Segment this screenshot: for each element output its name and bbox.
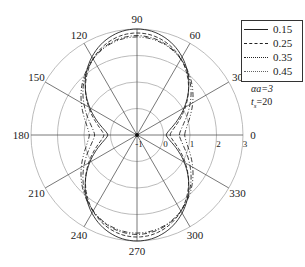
angle-tick-label: 0: [250, 129, 256, 141]
angle-tick-label: 180: [13, 129, 30, 141]
angle-tick-label: 210: [28, 187, 45, 199]
radial-tick-label: 2: [216, 139, 221, 149]
angle-tick-label: 150: [28, 71, 45, 83]
radial-tick-label: 3: [243, 139, 248, 149]
radial-tick-label: 0: [163, 139, 168, 149]
legend-label: 0.25: [273, 37, 292, 50]
legend-item: 0.45: [244, 65, 300, 78]
grid-spoke: [45, 82, 137, 135]
grid-spoke: [45, 135, 137, 188]
legend-swatch-solid: [244, 29, 268, 30]
angle-tick-label: 240: [71, 229, 88, 241]
legend: 0.15 0.25 0.35 0.45: [241, 20, 303, 82]
legend-label: 0.15: [273, 23, 292, 36]
grid-spoke: [137, 82, 229, 135]
param-aa: αa=3: [251, 83, 273, 94]
center-dot: [135, 133, 139, 137]
legend-label: 0.35: [273, 51, 292, 64]
legend-swatch-dashdotdot: [244, 71, 268, 72]
legend-item: 0.15: [244, 23, 300, 36]
legend-item: 0.25: [244, 37, 300, 50]
legend-label: 0.45: [273, 65, 292, 78]
legend-swatch-dashdot: [244, 57, 268, 58]
radial-tick-label: -1: [135, 139, 143, 149]
angle-tick-label: 330: [229, 187, 246, 199]
radial-tick-label: 1: [190, 139, 195, 149]
angle-tick-label: 120: [71, 29, 88, 41]
legend-swatch-dashed: [244, 43, 268, 44]
angle-tick-label: 270: [129, 245, 146, 257]
param-ts: ts=20: [251, 96, 272, 110]
angle-tick-label: 90: [132, 13, 144, 25]
grid-spoke: [137, 135, 229, 188]
angle-tick-label: 300: [187, 229, 204, 241]
angle-tick-label: 60: [190, 29, 202, 41]
param-ts-value: =20: [257, 96, 273, 107]
legend-item: 0.35: [244, 51, 300, 64]
